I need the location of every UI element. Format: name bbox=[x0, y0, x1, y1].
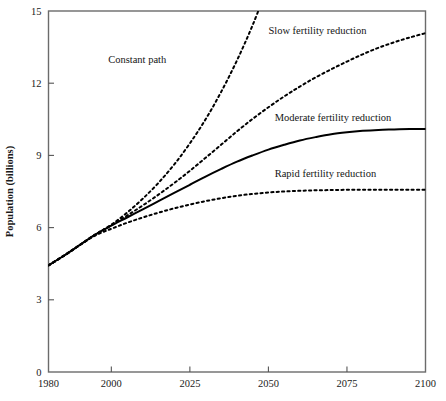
y-tick-label: 3 bbox=[36, 294, 41, 305]
x-tick-label: 2100 bbox=[415, 378, 436, 389]
x-tick-label: 2000 bbox=[101, 378, 122, 389]
chart-background bbox=[0, 0, 446, 401]
x-tick-label: 2075 bbox=[336, 378, 357, 389]
series-label-constant-path: Constant path bbox=[108, 54, 167, 65]
x-tick-label: 2025 bbox=[179, 378, 200, 389]
y-tick-label: 15 bbox=[31, 6, 42, 17]
y-axis-title: Population (billions) bbox=[4, 145, 16, 237]
series-label-rapid-fertility-reduction: Rapid fertility reduction bbox=[275, 168, 377, 179]
x-tick-label: 2050 bbox=[258, 378, 279, 389]
y-tick-label: 12 bbox=[31, 78, 42, 89]
y-tick-label: 9 bbox=[36, 150, 41, 161]
y-tick-label: 0 bbox=[36, 367, 41, 378]
series-label-slow-fertility-reduction: Slow fertility reduction bbox=[268, 25, 367, 36]
chart-container: 198020002025205020752100 03691215 Consta… bbox=[0, 0, 446, 401]
population-projection-chart: 198020002025205020752100 03691215 Consta… bbox=[0, 0, 446, 401]
y-tick-label: 6 bbox=[36, 222, 41, 233]
x-tick-label: 1980 bbox=[38, 378, 59, 389]
series-label-moderate-fertility-reduction: Moderate fertility reduction bbox=[275, 112, 392, 123]
